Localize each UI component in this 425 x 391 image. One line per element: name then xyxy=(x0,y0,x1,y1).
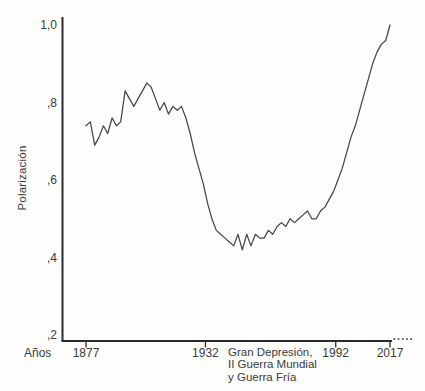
y-tick-label: ,8 xyxy=(25,97,57,109)
chart-canvas xyxy=(0,0,425,391)
x-tick-label: 1932 xyxy=(183,347,227,359)
annotation-line: II Guerra Mundial xyxy=(228,358,317,370)
x-tick-label: 1992 xyxy=(314,347,358,359)
polarization-chart: Polarización 1,0 ,8 ,6 ,4 ,2 Años 1877 1… xyxy=(0,0,425,391)
y-tick-label: ,4 xyxy=(25,252,57,264)
y-tick-label: ,6 xyxy=(25,174,57,186)
annotation-line: Gran Depresión, xyxy=(228,346,317,358)
polarization-line-series xyxy=(86,25,390,250)
x-tick-label: 2017 xyxy=(368,347,412,359)
x-axis-title: Años xyxy=(24,347,51,359)
y-tick-label: ,2 xyxy=(25,329,57,341)
x-tick-label: 1877 xyxy=(64,347,108,359)
annotation-line: y Guerra Fría xyxy=(228,371,317,383)
y-tick-label: 1,0 xyxy=(25,19,57,31)
historical-annotation: Gran Depresión, II Guerra Mundial y Guer… xyxy=(228,346,317,383)
